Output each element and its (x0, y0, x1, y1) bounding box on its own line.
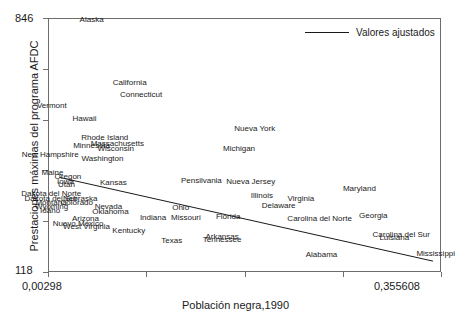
data-point-label: West Virginia (63, 223, 110, 231)
x-axis-tick-label-max: 0,355608 (374, 280, 420, 292)
data-point-label: Nueva Jersey (226, 178, 275, 186)
legend-series-label: Valores ajustados (356, 27, 435, 38)
data-point-label: Hawaii (72, 115, 96, 123)
data-point-label: California (113, 79, 147, 87)
data-point-label: Maryland (343, 185, 376, 193)
legend: Valores ajustados (305, 27, 435, 38)
data-point-label: Luisiana (379, 234, 409, 242)
data-point-label: Indiana (140, 214, 166, 222)
x-axis-title: Población negra,1990 (0, 299, 471, 311)
data-point-label: Illinois (251, 192, 273, 200)
plot-area: AlaskaCaliforniaConnecticutVermontHawaii… (48, 18, 441, 272)
data-point-label: Washington (82, 155, 124, 163)
data-point-label: Georgia (359, 212, 387, 220)
data-point-label: Texas (161, 237, 182, 245)
data-point-label: Missouri (171, 214, 201, 222)
data-point-label: Utah (58, 181, 75, 189)
data-point-label: Alaska (80, 16, 104, 24)
data-point-label: Tennessee (203, 236, 242, 244)
data-point-label: Delaware (262, 202, 296, 210)
data-point-label: Nueva York (234, 125, 275, 133)
scatter-plot-figure: Prestaciones máximas del programa AFDC 8… (0, 0, 471, 321)
y-axis-tick-label-min: 118 (15, 264, 33, 276)
data-point-label: Connecticut (120, 91, 162, 99)
data-point-label: Carolina del Norte (287, 215, 351, 223)
data-point-label: Mississippi (416, 250, 455, 258)
data-point-label: Michigan (223, 145, 255, 153)
legend-line-swatch (305, 32, 349, 33)
data-point-label: Ohio (172, 204, 189, 212)
data-point-label: Kansas (100, 179, 127, 187)
data-point-label: Idaho (40, 207, 60, 215)
data-point-label: Pensilvania (181, 177, 222, 185)
data-point-label: Kentucky (112, 227, 145, 235)
data-point-label: Florida (216, 213, 240, 221)
data-point-label: Vermont (37, 102, 67, 110)
y-axis-title: Prestaciones máximas del programa AFDC (28, 16, 40, 276)
data-point-label: Wisconsin (97, 145, 133, 153)
x-axis-tick-label-min: 0,00298 (22, 280, 62, 292)
y-axis-tick-label-max: 846 (15, 12, 33, 24)
data-point-label: Alabama (306, 251, 338, 259)
data-point-label: New Hampshire (22, 151, 79, 159)
